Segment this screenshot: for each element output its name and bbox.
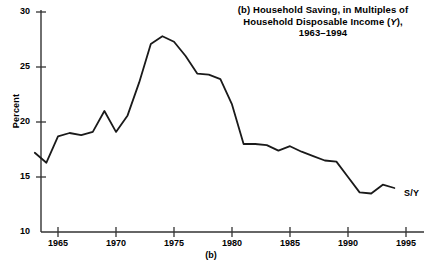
chart-figure: (b) Household Saving, in Multiples of Ho… [0,0,442,265]
plot-area [0,0,442,265]
data-series-line-sy [35,36,395,193]
